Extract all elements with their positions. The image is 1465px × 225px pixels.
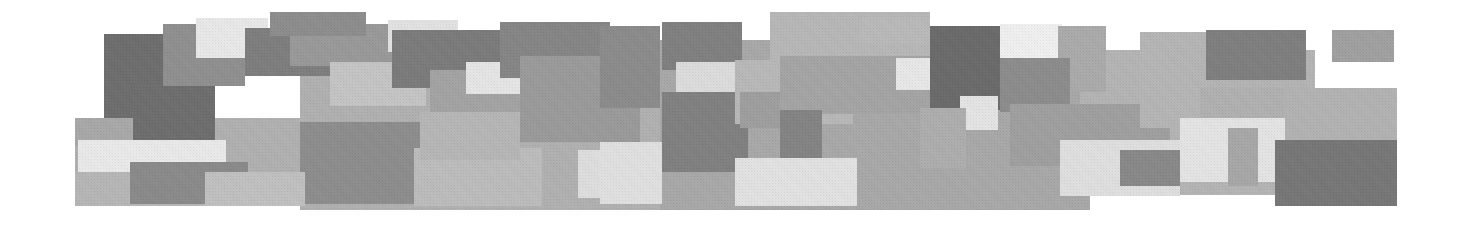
tile-dark-r-1 <box>780 110 822 158</box>
tile-nearwhite-center-big <box>735 158 857 206</box>
tile-bottom-fill-mid <box>420 112 520 160</box>
tile-dark-low-1 <box>300 122 425 204</box>
tile-top-cap-1 <box>270 12 366 36</box>
tile-bottom-fill-left <box>205 172 305 206</box>
tile-dark-rr-small <box>1332 30 1394 62</box>
tile-top-cap-2 <box>860 18 930 44</box>
tile-light-center-1 <box>600 142 662 204</box>
tile-dark-top-4 <box>600 26 660 108</box>
tile-dark-left-lower <box>130 86 215 140</box>
tile-charcoal-rr-corner <box>1275 140 1397 206</box>
tile-dark-rr-1 <box>1206 30 1306 80</box>
tile-gray-rr-1 <box>1140 32 1208 128</box>
tile-gray-r-4 <box>920 108 966 168</box>
tile-white-r-1 <box>1000 24 1062 60</box>
tile-gray-rr-3 <box>1228 128 1258 186</box>
tile-dark-r-3 <box>1120 150 1180 186</box>
tile-gray-rr-4 <box>1285 88 1397 140</box>
mosaic-canvas <box>0 0 1465 225</box>
